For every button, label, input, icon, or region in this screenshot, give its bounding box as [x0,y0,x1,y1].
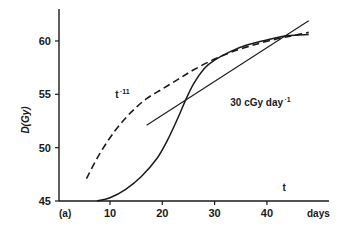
x-tick-label: 10 [104,207,116,219]
y-tick-label: 50 [39,142,51,154]
series-line-0 [97,35,309,202]
series-layer [87,21,309,201]
x-ticks: 10203040 [104,201,273,219]
y-ticks: 45505560 [39,35,59,207]
annotation-2: t [283,182,287,193]
x-tick-label: 40 [261,207,273,219]
y-tick-label: 60 [39,35,51,47]
y-axis-title: D(Gy) [20,106,31,134]
chart: 45505560 10203040 days D(Gy) (a) t ·1130… [0,0,347,234]
x-axis-title: days [307,208,330,219]
annotation-1: 30 cGy day ·1 [230,96,291,108]
series-line-2 [147,21,309,126]
x-tick-label: 20 [156,207,168,219]
y-tick-label: 55 [39,88,51,100]
x-tick-label: 30 [208,207,220,219]
annotation-0: t ·11 [115,88,130,100]
y-tick-label: 45 [39,195,51,207]
panel-label: (a) [59,208,71,219]
